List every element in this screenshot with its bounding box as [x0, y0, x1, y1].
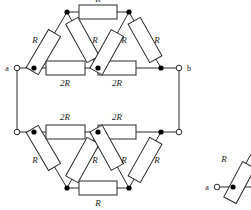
resistor-body	[79, 181, 117, 195]
secondary-circuit: R a	[205, 154, 251, 204]
resistor-top-apex: R	[79, 0, 117, 19]
main-circuit: R 2R 2R R R R	[5, 0, 191, 208]
resistor-label: 2R	[60, 112, 71, 122]
resistor-body	[46, 61, 85, 75]
resistor-label: R	[153, 35, 160, 45]
terminal-a-secondary[interactable]	[214, 184, 220, 190]
resistor-body	[79, 5, 117, 19]
node-dot	[95, 129, 100, 134]
resistor-top-h1: 2R	[46, 61, 85, 88]
circuit-svg: R 2R 2R R R R	[0, 0, 251, 210]
terminal-b-label: b	[187, 64, 191, 73]
resistor-top-d2: R	[66, 17, 100, 62]
resistor-label: R	[153, 155, 160, 165]
resistor-label: 2R	[60, 78, 71, 88]
resistor-label: R	[91, 35, 98, 45]
node-dot	[158, 129, 163, 134]
resistor-label: 2R	[112, 78, 123, 88]
resistor-label: R	[120, 155, 127, 165]
resistor-bottom-d2: R	[66, 137, 100, 182]
terminal-b[interactable]	[176, 65, 182, 71]
resistor-label: R	[220, 154, 227, 164]
resistor-label: R	[31, 155, 38, 165]
terminal-a-label: a	[5, 64, 9, 73]
resistor-label: R	[94, 0, 101, 4]
terminal-a-secondary-label: a	[205, 183, 209, 192]
resistor-body	[224, 162, 251, 204]
circuit-diagram-canvas: R 2R 2R R R R	[0, 0, 251, 210]
resistor-body	[46, 125, 85, 139]
resistor-bottom-d4: R	[128, 137, 162, 182]
node-dot	[126, 9, 131, 14]
resistor-bottom-apex: R	[79, 181, 117, 208]
resistor-label: 2R	[112, 112, 123, 122]
resistor-label: R	[94, 198, 101, 208]
node-dot	[158, 65, 163, 70]
terminal-a[interactable]	[14, 65, 20, 71]
node-dot	[64, 185, 69, 190]
terminal-b-lower[interactable]	[176, 129, 182, 135]
node-dot	[126, 185, 131, 190]
resistor-label: R	[120, 35, 127, 45]
resistor-bottom-h1: 2R	[46, 112, 85, 139]
top-section: R 2R 2R R R R	[26, 0, 163, 88]
node-dot	[230, 184, 235, 189]
node-dot	[31, 65, 36, 70]
resistor-label: R	[91, 155, 98, 165]
resistor-top-d4: R	[128, 17, 162, 62]
outer-loop-wires	[17, 68, 179, 132]
node-dot	[31, 129, 36, 134]
bottom-section: R 2R 2R R R R	[26, 112, 163, 208]
terminal-a-lower[interactable]	[14, 129, 20, 135]
node-dot	[64, 9, 69, 14]
node-dot	[95, 65, 100, 70]
resistor-label: R	[31, 35, 38, 45]
